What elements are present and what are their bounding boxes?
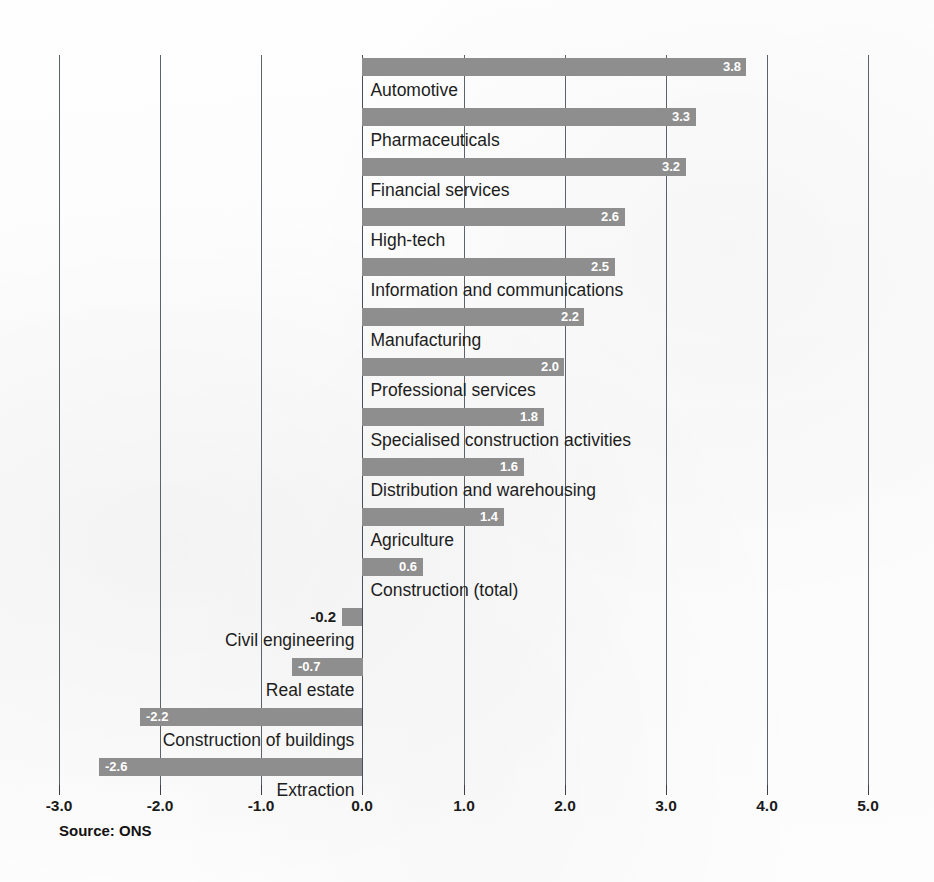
bar-row: 2.6High-tech: [0, 205, 934, 255]
bar-row: -0.2Civil engineering: [0, 605, 934, 655]
tick-mark: [160, 785, 161, 795]
x-axis-tick-labels: -3.0-2.0-1.00.01.02.03.04.05.0: [0, 797, 934, 819]
tick-mark: [464, 785, 465, 795]
bar-row: 1.6Distribution and warehousing: [0, 455, 934, 505]
bar-value-label: 1.8: [506, 408, 538, 426]
tick-label: 5.0: [857, 797, 879, 815]
plot-area: 3.8Automotive3.3Pharmaceuticals3.2Financ…: [0, 55, 934, 785]
category-label: Civil engineering: [225, 628, 354, 653]
bar-value-label: 2.2: [547, 308, 579, 326]
bar-value-label: 3.8: [709, 58, 741, 76]
tick-label: 2.0: [554, 797, 576, 815]
bar: [342, 608, 362, 626]
category-label: Professional services: [370, 378, 535, 403]
bar-row: 1.4Agriculture: [0, 505, 934, 555]
bar-value-label: 2.5: [577, 258, 609, 276]
category-label: Pharmaceuticals: [370, 128, 499, 153]
bar-row: 3.8Automotive: [0, 55, 934, 105]
bar: [362, 108, 696, 126]
category-label: Agriculture: [370, 528, 454, 553]
tick-mark: [565, 785, 566, 795]
bar: [362, 208, 625, 226]
tick-mark: [59, 785, 60, 795]
source-note: Source: ONS: [59, 822, 152, 839]
bar-row: -0.7Real estate: [0, 655, 934, 705]
bar-row: 2.5Information and communications: [0, 255, 934, 305]
tick-mark: [767, 785, 768, 795]
category-label: Distribution and warehousing: [370, 478, 596, 503]
bar-value-label: 2.6: [587, 208, 619, 226]
bar-row: 2.2Manufacturing: [0, 305, 934, 355]
category-label: Construction (total): [370, 578, 518, 603]
bar-value-label: -2.6: [105, 758, 139, 776]
bar-row: 3.2Financial services: [0, 155, 934, 205]
bar-value-label: 0.6: [385, 558, 417, 576]
category-label: Specialised construction activities: [370, 428, 631, 453]
horizontal-bar-chart: 3.8Automotive3.3Pharmaceuticals3.2Financ…: [0, 0, 934, 882]
bar-value-label: 1.4: [466, 508, 498, 526]
bar-row: -2.2Construction of buildings: [0, 705, 934, 755]
bar-value-label: 3.2: [648, 158, 680, 176]
category-label: Information and communications: [370, 278, 623, 303]
category-label: Financial services: [370, 178, 509, 203]
tick-label: -2.0: [147, 797, 174, 815]
tick-label: 1.0: [453, 797, 475, 815]
bar-row: 3.3Pharmaceuticals: [0, 105, 934, 155]
tick-label: 3.0: [655, 797, 677, 815]
category-label: Automotive: [370, 78, 458, 103]
tick-mark: [868, 785, 869, 795]
x-axis-tick-marks: [0, 785, 934, 797]
tick-mark: [362, 785, 363, 795]
category-label: High-tech: [370, 228, 445, 253]
bar-value-label: -0.2: [294, 607, 336, 626]
tick-label: -1.0: [248, 797, 275, 815]
category-label: Manufacturing: [370, 328, 481, 353]
tick-mark: [666, 785, 667, 795]
bar: [362, 158, 686, 176]
bar-value-label: -2.2: [146, 708, 180, 726]
tick-label: -3.0: [46, 797, 73, 815]
category-label: Construction of buildings: [163, 728, 355, 753]
bar-value-label: 3.3: [658, 108, 690, 126]
tick-label: 4.0: [756, 797, 778, 815]
bar-row: 0.6Construction (total): [0, 555, 934, 605]
bar-value-label: 1.6: [486, 458, 518, 476]
bar-value-label: 2.0: [527, 358, 559, 376]
tick-label: 0.0: [351, 797, 373, 815]
bar-row: 2.0Professional services: [0, 355, 934, 405]
category-label: Real estate: [266, 678, 355, 703]
bar-row: 1.8Specialised construction activities: [0, 405, 934, 455]
bar-value-label: -0.7: [298, 658, 332, 676]
tick-mark: [261, 785, 262, 795]
bar: [362, 58, 746, 76]
